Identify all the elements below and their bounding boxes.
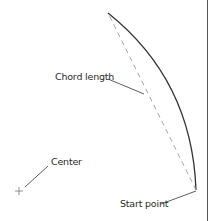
start-point-label: Start point xyxy=(120,198,168,210)
center-cross-icon xyxy=(15,187,23,195)
center-leader xyxy=(25,166,48,187)
arc-diagram xyxy=(0,0,213,221)
center-label: Center xyxy=(51,156,82,168)
chord-length-label: Chord length xyxy=(55,71,114,83)
chord-line xyxy=(108,13,196,190)
